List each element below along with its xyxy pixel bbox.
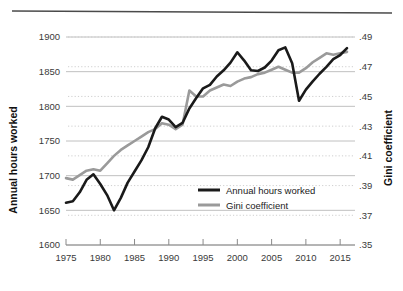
y2-axis-tick-label: .39 <box>359 180 372 191</box>
y-axis-tick-label: 1600 <box>39 239 60 250</box>
x-axis-tick-label: 2000 <box>227 252 248 263</box>
x-axis-tick-label: 1985 <box>124 252 145 263</box>
x-axis-tick-labels: 197519801985199019952000200520102015 <box>55 252 350 263</box>
dual-axis-line-chart: 1600165017001750180018501900 .35.37.39.4… <box>0 0 403 291</box>
y2-axis-tick-label: .41 <box>359 150 372 161</box>
y2-axis-tick-label: .45 <box>359 91 372 102</box>
y-axis-tick-label: 1850 <box>39 66 60 77</box>
y-axis-tick-label: 1650 <box>39 205 60 216</box>
x-axis-tick-label: 1995 <box>193 252 214 263</box>
chart-container: 1600165017001750180018501900 .35.37.39.4… <box>0 0 403 291</box>
y2-axis-title: Gini coefficient <box>382 110 394 186</box>
x-axis-tick-label: 1980 <box>90 252 111 263</box>
chart-background <box>0 0 403 291</box>
x-axis-tick-label: 2010 <box>295 252 316 263</box>
x-axis-tick-label: 2005 <box>261 252 282 263</box>
y-axis-tick-label: 1700 <box>39 170 60 181</box>
y-axis-title: Annual hours worked <box>7 106 19 213</box>
legend-label: Annual hours worked <box>226 185 315 196</box>
legend-label: Gini coefficient <box>226 200 288 211</box>
x-axis-tick-label: 2015 <box>330 252 351 263</box>
y2-axis-tick-label: .43 <box>359 121 372 132</box>
x-axis-tick-label: 1990 <box>158 252 179 263</box>
y-axis-tick-label: 1750 <box>39 135 60 146</box>
y2-axis-tick-label: .37 <box>359 210 372 221</box>
y2-axis-tick-label: .47 <box>359 61 372 72</box>
y2-axis-tick-label: .35 <box>359 239 372 250</box>
y-axis-tick-label: 1800 <box>39 101 60 112</box>
x-axis-tick-label: 1975 <box>55 252 76 263</box>
y-axis-tick-label: 1900 <box>39 31 60 42</box>
y2-axis-tick-label: .49 <box>359 31 372 42</box>
